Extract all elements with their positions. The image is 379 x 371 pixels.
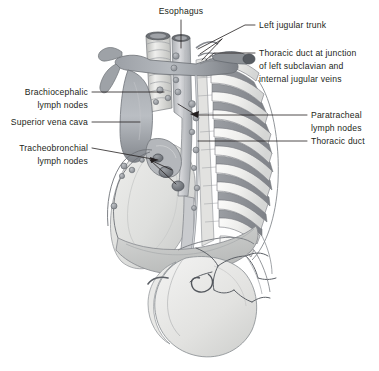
label-paratracheal-lymph-nodes: Paratracheal lymph nodes — [311, 110, 362, 133]
stomach — [148, 257, 257, 357]
svg-text:of left subclavian and: of left subclavian and — [259, 61, 344, 71]
label-thoracic-duct: Thoracic duct — [311, 136, 365, 146]
svg-text:internal jugular veins: internal jugular veins — [259, 74, 342, 84]
label-superior-vena-cava: Superior vena cava — [11, 117, 88, 127]
svg-text:lymph nodes: lymph nodes — [311, 123, 362, 133]
svg-text:Paratracheal: Paratracheal — [311, 110, 362, 120]
anatomical-figure: Esophagus Left jugular trunk Thoracic du… — [0, 0, 379, 371]
leader-left-jugular-trunk — [198, 25, 255, 49]
svg-text:Thoracic duct at junction: Thoracic duct at junction — [259, 48, 356, 58]
svg-text:lymph nodes: lymph nodes — [37, 156, 88, 166]
label-brachiocephalic-lymph-nodes: Brachiocephalic lymph nodes — [25, 87, 89, 110]
svg-text:Brachiocephalic: Brachiocephalic — [25, 87, 89, 97]
label-tracheobronchial-lymph-nodes: Tracheobronchial lymph nodes — [19, 143, 88, 166]
label-left-jugular-trunk: Left jugular trunk — [259, 20, 327, 30]
label-esophagus: Esophagus — [159, 6, 204, 16]
label-thoracic-duct-junction: Thoracic duct at junction of left subcla… — [259, 48, 356, 84]
anatomy-artwork — [98, 32, 278, 357]
svg-text:Tracheobronchial: Tracheobronchial — [19, 143, 88, 153]
thoracic-lymphatics-illustration: Esophagus Left jugular trunk Thoracic du… — [0, 0, 379, 371]
svg-text:lymph nodes: lymph nodes — [37, 100, 88, 110]
